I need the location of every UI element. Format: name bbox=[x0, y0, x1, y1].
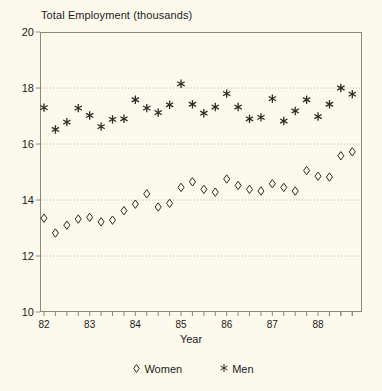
x-tick-label: 88 bbox=[303, 320, 333, 330]
legend-label-women: Women bbox=[144, 363, 182, 375]
diamond-marker-icon bbox=[128, 363, 144, 375]
y-tick-label: 20 bbox=[8, 27, 34, 38]
data-point-women bbox=[304, 166, 310, 174]
data-point-men bbox=[246, 115, 253, 123]
data-point-men bbox=[86, 111, 93, 119]
data-point-women bbox=[155, 203, 161, 211]
data-point-women bbox=[269, 180, 275, 188]
data-point-women bbox=[326, 173, 332, 181]
data-points bbox=[40, 80, 356, 238]
data-point-women bbox=[41, 214, 47, 222]
data-point-women bbox=[292, 187, 298, 195]
x-tick-label: 82 bbox=[29, 320, 59, 330]
employment-scatter-chart: Total Employment (thousands) 10121416182… bbox=[0, 0, 382, 391]
x-axis-title: Year bbox=[0, 333, 382, 345]
data-point-women bbox=[349, 148, 355, 156]
data-point-men bbox=[269, 94, 276, 102]
data-point-men bbox=[155, 108, 162, 116]
data-point-men bbox=[177, 80, 184, 88]
data-point-men bbox=[109, 115, 116, 123]
data-point-men bbox=[326, 100, 333, 108]
data-point-women bbox=[281, 183, 287, 191]
data-point-men bbox=[314, 112, 321, 120]
data-point-men bbox=[280, 117, 287, 125]
data-point-women bbox=[247, 185, 253, 193]
data-point-women bbox=[178, 183, 184, 191]
data-point-women bbox=[109, 216, 115, 224]
data-point-women bbox=[201, 185, 207, 193]
asterisk-marker-icon bbox=[216, 363, 232, 375]
data-point-men bbox=[97, 122, 104, 130]
data-point-men bbox=[292, 107, 299, 115]
data-point-men bbox=[257, 113, 264, 121]
data-point-women bbox=[52, 229, 58, 237]
data-point-men bbox=[212, 103, 219, 111]
y-tick-label: 16 bbox=[8, 139, 34, 150]
data-point-women bbox=[235, 181, 241, 189]
data-point-women bbox=[98, 218, 104, 226]
x-tick-label: 83 bbox=[75, 320, 105, 330]
x-tick-label: 85 bbox=[166, 320, 196, 330]
chart-legend: Women Men bbox=[0, 362, 382, 375]
data-point-women bbox=[224, 175, 230, 183]
data-point-men bbox=[349, 90, 356, 98]
x-tick-label: 87 bbox=[257, 320, 287, 330]
x-tick-label: 86 bbox=[212, 320, 242, 330]
data-point-men bbox=[132, 96, 139, 104]
data-point-men bbox=[143, 104, 150, 112]
data-point-men bbox=[166, 101, 173, 109]
y-tick-label: 18 bbox=[8, 83, 34, 94]
data-point-women bbox=[258, 187, 264, 195]
data-point-men bbox=[303, 96, 310, 104]
y-tick-label: 12 bbox=[8, 251, 34, 262]
legend-label-men: Men bbox=[232, 363, 253, 375]
data-point-women bbox=[121, 206, 127, 214]
data-point-men bbox=[234, 103, 241, 111]
y-tick-label: 14 bbox=[8, 195, 34, 206]
data-point-men bbox=[75, 104, 82, 112]
data-point-women bbox=[132, 200, 138, 208]
data-point-men bbox=[120, 115, 127, 123]
data-point-men bbox=[223, 89, 230, 97]
data-point-men bbox=[189, 100, 196, 108]
data-point-women bbox=[64, 221, 70, 229]
data-point-women bbox=[212, 188, 218, 196]
data-point-women bbox=[338, 152, 344, 160]
data-point-men bbox=[40, 103, 47, 111]
data-point-women bbox=[75, 215, 81, 223]
data-point-men bbox=[52, 125, 59, 133]
data-point-women bbox=[87, 213, 93, 221]
gridlines bbox=[41, 88, 361, 256]
data-point-men bbox=[63, 118, 70, 126]
x-tick-label: 84 bbox=[120, 320, 150, 330]
y-tick-label: 10 bbox=[8, 307, 34, 318]
data-point-women bbox=[189, 178, 195, 186]
data-point-women bbox=[144, 190, 150, 198]
axis-ticks bbox=[36, 32, 352, 316]
data-point-men bbox=[200, 109, 207, 117]
data-point-women bbox=[315, 172, 321, 180]
